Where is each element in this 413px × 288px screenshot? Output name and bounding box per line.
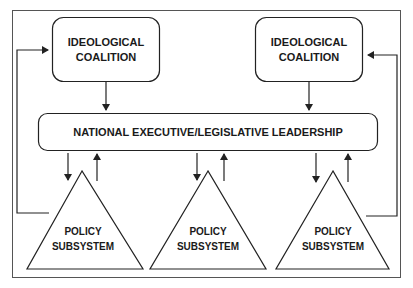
policy-subsystem-2: POLICY SUBSYSTEM — [150, 171, 266, 269]
coalition-right-line2: COALITION — [279, 51, 340, 63]
policy-subsystem-1: POLICY SUBSYSTEM — [27, 171, 143, 269]
diagram-canvas: IDEOLOGICAL COALITION IDEOLOGICAL COALIT… — [0, 0, 413, 288]
coalition-right-node: IDEOLOGICAL COALITION — [256, 18, 363, 82]
leadership-label: NATIONAL EXECUTIVE/LEGISLATIVE LEADERSHI… — [73, 126, 343, 138]
coalition-left-line2: COALITION — [76, 51, 137, 63]
subsystem-1-line1: POLICY — [64, 226, 102, 237]
subsystem-3-line1: POLICY — [314, 226, 352, 237]
leadership-node: NATIONAL EXECUTIVE/LEGISLATIVE LEADERSHI… — [39, 114, 378, 151]
coalition-left-line1: IDEOLOGICAL — [68, 36, 145, 48]
subsystem-2-line1: POLICY — [189, 226, 227, 237]
coalition-right-line1: IDEOLOGICAL — [271, 36, 348, 48]
coalition-left-node: IDEOLOGICAL COALITION — [53, 18, 160, 82]
subsystem-3-line2: SUBSYSTEM — [302, 241, 364, 252]
subsystem-1-line2: SUBSYSTEM — [52, 241, 114, 252]
policy-subsystem-3: POLICY SUBSYSTEM — [276, 171, 389, 269]
subsystem-2-line2: SUBSYSTEM — [177, 241, 239, 252]
